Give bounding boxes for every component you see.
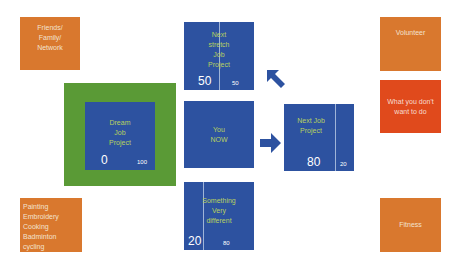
arrow-up-left-icon [265,68,287,90]
hobbies-box: Painting Embroidery Cooking Badminton cy… [20,198,82,252]
arrow-right-icon [260,133,281,153]
next-job-box: Next Job Project 80 20 [284,104,354,171]
left-value: 20 [188,234,201,248]
box-line: Dream [85,118,155,128]
box-line: Badminton [23,232,59,242]
box-line: Something [184,196,254,206]
box-line: Friends/ [20,23,80,33]
box-line: Volunteer [380,28,441,38]
box-line: Painting [23,202,59,212]
box-line: different [184,216,254,226]
dream-job-box: Dream Job Project 0 100 [85,102,155,170]
box-line: Family/ [20,33,80,43]
box-line: Fitness [380,220,441,230]
you-now-box: You NOW [184,101,254,168]
next-stretch-job-box: Next stretch Job Project 50 50 [184,22,254,90]
box-line: Embroidery [23,212,59,222]
left-value: 50 [198,74,211,88]
box-line: Job [85,128,155,138]
box-line: Project [85,138,155,148]
box-line: cycling [23,242,59,252]
volunteer-box: Volunteer [380,17,441,71]
box-line: Network [20,43,80,53]
box-line: stretch [184,40,254,50]
box-line: Next Job [284,116,338,126]
right-value: 100 [137,159,147,165]
box-line: Very [184,206,254,216]
something-different-box: Something Very different 20 80 [184,182,254,250]
box-line: Project [184,60,254,70]
left-value: 80 [307,155,320,169]
friends-family-network-box: Friends/ Family/ Network [20,17,80,70]
box-line: Job [184,50,254,60]
box-line: NOW [184,135,254,145]
box-line: What you don't [380,97,441,107]
box-line: Next [184,30,254,40]
right-value: 80 [223,240,230,246]
fitness-box: Fitness [380,198,441,252]
box-line: You [184,125,254,135]
right-value: 20 [340,161,347,167]
right-value: 50 [232,80,239,86]
box-line: Project [284,126,338,136]
box-line: want to do [380,107,441,117]
divider [335,104,336,171]
left-value: 0 [101,153,108,167]
box-line: Cooking [23,222,59,232]
dont-want-box: What you don't want to do [380,80,441,133]
